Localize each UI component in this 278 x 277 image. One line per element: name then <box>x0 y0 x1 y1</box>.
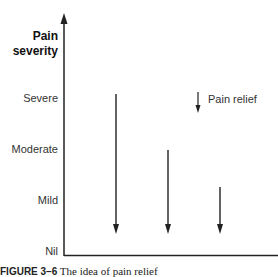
legend-arrow-icon <box>196 92 201 113</box>
y-axis <box>61 13 68 256</box>
figure-caption: FIGURE 3–6 The idea of pain relief <box>0 265 158 277</box>
y-axis-title-line2: severity <box>0 44 58 59</box>
legend-label: Pain relief <box>208 93 257 105</box>
y-label-severe: Severe <box>23 92 58 104</box>
y-axis-arrowhead-icon <box>61 13 68 24</box>
figure-number: FIGURE 3–6 <box>0 266 57 277</box>
figure-caption-text: The idea of pain relief <box>60 265 158 277</box>
y-axis-title-line1: Pain <box>0 29 58 44</box>
y-axis-title: Pain severity <box>0 29 58 59</box>
y-label-moderate: Moderate <box>12 143 58 155</box>
relief-arrow-moderate <box>165 150 171 234</box>
relief-arrow-mild <box>217 187 223 234</box>
relief-arrow-severe <box>113 94 119 234</box>
y-label-mild: Mild <box>38 194 58 206</box>
y-label-nil: Nil <box>45 245 58 257</box>
